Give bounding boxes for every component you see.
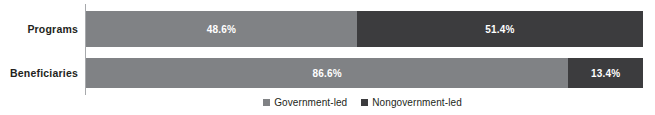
bar-value-label: 51.4% xyxy=(485,24,514,35)
bar-segment-nongovernment-led[interactable]: 13.4% xyxy=(568,58,643,88)
category-label-programs: Programs xyxy=(0,23,78,35)
legend-label: Government-led xyxy=(274,97,347,108)
bar-row: 86.6% 13.4% xyxy=(86,58,643,88)
legend-label: Nongovernment-led xyxy=(372,97,462,108)
square-swatch-icon xyxy=(361,99,368,106)
bar-value-label: 86.6% xyxy=(313,68,342,79)
stacked-bar-chart: Programs Beneficiaries 48.6% 51.4% 86.6%… xyxy=(0,0,655,115)
bar-value-label: 48.6% xyxy=(207,24,236,35)
legend-item-nongovernment-led[interactable]: Nongovernment-led xyxy=(361,97,462,108)
category-label-beneficiaries: Beneficiaries xyxy=(0,67,78,79)
bar-segment-nongovernment-led[interactable]: 51.4% xyxy=(357,11,643,47)
bar-row: 48.6% 51.4% xyxy=(86,11,643,47)
bar-segment-government-led[interactable]: 48.6% xyxy=(86,11,357,47)
bar-value-label: 13.4% xyxy=(591,68,620,79)
chart-legend: Government-led Nongovernment-led xyxy=(0,97,655,108)
legend-item-government-led[interactable]: Government-led xyxy=(263,97,347,108)
square-swatch-icon xyxy=(263,99,270,106)
plot-area: 48.6% 51.4% 86.6% 13.4% xyxy=(86,0,643,96)
bar-segment-government-led[interactable]: 86.6% xyxy=(86,58,568,88)
